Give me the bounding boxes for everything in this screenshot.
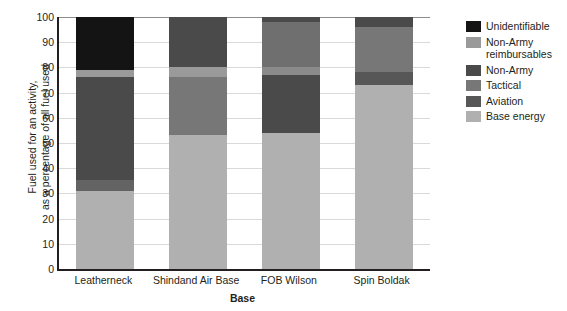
y-tick-label: 60	[26, 113, 54, 123]
legend-label-line1: Non-Army	[486, 36, 533, 48]
y-tick-label: 0	[26, 264, 54, 274]
bar-segment	[76, 191, 134, 269]
legend-label: Base energy	[486, 110, 545, 123]
bar-segment	[169, 135, 227, 269]
legend-item: Tactical	[466, 79, 567, 92]
y-tick-label: 50	[26, 138, 54, 148]
legend-swatch-icon	[466, 65, 481, 76]
x-tick-label: Spin Boldak	[354, 274, 410, 287]
bar-fob-wilson	[262, 17, 320, 269]
x-tick-label: FOB Wilson	[261, 274, 317, 287]
bar-segment	[76, 17, 134, 70]
y-tick-label: 40	[26, 163, 54, 173]
bar-segment	[76, 77, 134, 179]
legend-label-line2: reimbursables	[486, 48, 552, 60]
legend-swatch-icon	[466, 21, 481, 32]
chart-legend: UnidentifiableNon-ArmyreimbursablesNon-A…	[466, 20, 567, 126]
legend-item: Non-Army	[466, 64, 567, 77]
bar-segment	[355, 85, 413, 269]
legend-label: Non-Armyreimbursables	[486, 36, 552, 61]
bar-leatherneck	[76, 17, 134, 269]
legend-label: Unidentifiable	[486, 20, 550, 33]
stacked-bar-chart: Fuel used for an activity, as a percenta…	[0, 0, 567, 311]
x-axis-ticks: LeatherneckShindand Air BaseFOB WilsonSp…	[57, 274, 428, 290]
bar-segment	[262, 17, 320, 22]
y-tick-label: 100	[26, 12, 54, 22]
plot-area	[57, 17, 430, 271]
bar-segment	[76, 180, 134, 191]
bar-segment	[76, 70, 134, 78]
y-tick-label: 90	[26, 37, 54, 47]
y-tick-label: 10	[26, 239, 54, 249]
legend-label: Tactical	[486, 79, 521, 92]
y-tick-label: 20	[26, 214, 54, 224]
x-tick-label: Leatherneck	[74, 274, 132, 287]
legend-item: Base energy	[466, 110, 567, 123]
legend-swatch-icon	[466, 37, 481, 48]
y-tick-label: 80	[26, 62, 54, 72]
legend-swatch-icon	[466, 111, 481, 122]
legend-swatch-icon	[466, 80, 481, 91]
legend-swatch-icon	[466, 96, 481, 107]
bar-segment	[169, 17, 227, 67]
legend-label: Aviation	[486, 95, 523, 108]
bar-shindand-air-base	[169, 17, 227, 269]
legend-item: Non-Armyreimbursables	[466, 36, 567, 61]
y-axis-ticks: 0102030405060708090100	[26, 0, 54, 311]
bar-segment	[355, 17, 413, 27]
bar-segment	[262, 67, 320, 75]
plot-inner	[59, 17, 430, 269]
bar-segment	[262, 22, 320, 67]
legend-item: Aviation	[466, 95, 567, 108]
bar-segment	[355, 27, 413, 72]
y-tick-label: 70	[26, 88, 54, 98]
x-axis-title: Base	[57, 292, 428, 305]
x-tick-label: Shindand Air Base	[153, 274, 239, 287]
bar-spin-boldak	[355, 17, 413, 269]
legend-item: Unidentifiable	[466, 20, 567, 33]
y-tick-label: 30	[26, 188, 54, 198]
bar-segment	[262, 133, 320, 269]
bar-segment	[355, 72, 413, 85]
bar-segment	[169, 67, 227, 77]
bar-segment	[262, 75, 320, 133]
bar-segment	[169, 77, 227, 135]
legend-label: Non-Army	[486, 64, 533, 77]
